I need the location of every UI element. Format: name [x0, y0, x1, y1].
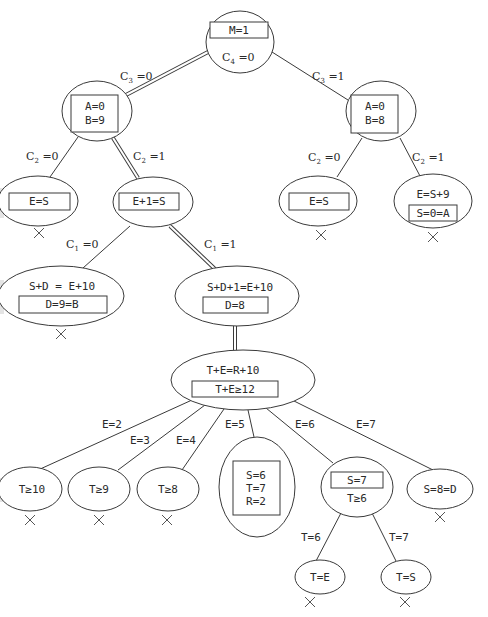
edge-label-c2-0-right: C2 =0	[308, 151, 341, 166]
node-text: S=8=D	[423, 483, 456, 496]
fail-marker-icon	[400, 597, 410, 607]
node-a0-b9: A=0 B=9	[62, 81, 132, 141]
node-text: B=9	[85, 114, 105, 127]
edge-label-c3-1: C3 =1	[312, 70, 345, 85]
fail-marker-icon	[94, 515, 104, 525]
fail-marker-icon	[316, 230, 326, 240]
node-text: A=0	[365, 100, 385, 113]
node-a0-b8: A=0 B=8	[346, 81, 416, 141]
node-text: T=E	[310, 571, 330, 584]
node-s-equals-7: S=7 T≥6	[321, 457, 393, 517]
fail-marker-icon	[428, 232, 438, 242]
node-text: S+D+1=E+10	[207, 281, 273, 294]
node-text: S+D = E+10	[29, 280, 95, 293]
node-root-box-text: M=1	[229, 24, 249, 37]
fail-marker-icon	[305, 597, 315, 607]
node-text: E=S	[309, 195, 329, 208]
edge-label-c2-0-left: C2 =0	[26, 150, 59, 165]
node-t-ge-10: T≥10	[0, 467, 62, 511]
edge-label-c1-1: C1 =1	[204, 238, 237, 253]
node-text: S=0=A	[416, 207, 449, 220]
edge-label-c2-1-left: C2 =1	[133, 150, 166, 165]
node-text: S=6	[246, 469, 266, 482]
edge-label-t7: T=7	[389, 531, 409, 544]
node-text: D=8	[225, 299, 245, 312]
node-s-equals-8: S=8=D	[407, 469, 473, 509]
node-e-equals-s-right: E=S	[279, 176, 357, 226]
node-text: T=7	[246, 482, 266, 495]
node-e-plus-1-equals-s: E+1=S	[113, 177, 193, 227]
fail-marker-icon	[34, 228, 44, 238]
node-text: T≥6	[347, 492, 367, 505]
node-s-plus-d: S+D = E+10 D=9=B	[0, 266, 124, 326]
node-text: T≥10	[19, 483, 46, 496]
node-text: A=0	[85, 100, 105, 113]
node-solution: S=6 T=7 R=2	[219, 437, 295, 537]
node-text: S=7	[347, 474, 367, 487]
edge-label-e6: E=6	[295, 418, 315, 431]
edge-label-e5: E=5	[225, 418, 245, 431]
node-t-equals-s: T=S	[381, 560, 431, 594]
node-text: T≥9	[89, 483, 109, 496]
node-e-equals-s-plus-9: E=S+9 S=0=A	[394, 174, 472, 228]
node-s-plus-d-plus-1: S+D+1=E+10 D=8	[175, 266, 299, 326]
node-text: E=S	[29, 195, 49, 208]
node-text: B=8	[365, 114, 385, 127]
edge-label-c3-0: C3 =0	[120, 70, 153, 85]
edge-label-e2: E=2	[102, 418, 122, 431]
search-tree-diagram: M=1 C4 =0 A=0 B=9 A=0 B=8 E=S E+1=S E=S …	[0, 0, 488, 617]
edge-label-e4: E=4	[176, 434, 196, 447]
fail-marker-icon	[56, 329, 66, 339]
edge-e2	[38, 400, 192, 470]
edge-label-e3: E=3	[130, 434, 150, 447]
node-t-ge-9: T≥9	[68, 467, 130, 511]
node-text: E=S+9	[416, 188, 449, 201]
edge-e5	[248, 410, 254, 437]
node-root-carry-text: C4 =0	[222, 51, 255, 66]
edge-c2-0-right	[337, 138, 362, 177]
node-t-equals-e: T=E	[295, 560, 345, 594]
edge-label-c1-0: C1 =0	[66, 238, 99, 253]
node-text: T=S	[396, 571, 416, 584]
node-text: T+E=R+10	[207, 364, 260, 377]
node-text: R=2	[246, 495, 266, 508]
node-text: T≥8	[158, 483, 178, 496]
node-root: M=1 C4 =0	[206, 11, 274, 73]
fail-marker-icon	[25, 515, 35, 525]
node-text: D=9=B	[45, 298, 78, 311]
edge-label-t6: T=6	[301, 531, 321, 544]
fail-marker-icon	[162, 515, 172, 525]
edge-label-e7: E=7	[356, 418, 376, 431]
node-text: T+E≥12	[215, 383, 255, 396]
edge-label-c2-1-right: C2 =1	[412, 151, 445, 166]
node-e-equals-s-left: E=S	[0, 176, 78, 226]
node-t-ge-8: T≥8	[137, 467, 199, 511]
fail-marker-icon	[435, 512, 445, 522]
node-text: E+1=S	[132, 195, 165, 208]
node-t-plus-e: T+E=R+10 T+E≥12	[171, 350, 315, 410]
